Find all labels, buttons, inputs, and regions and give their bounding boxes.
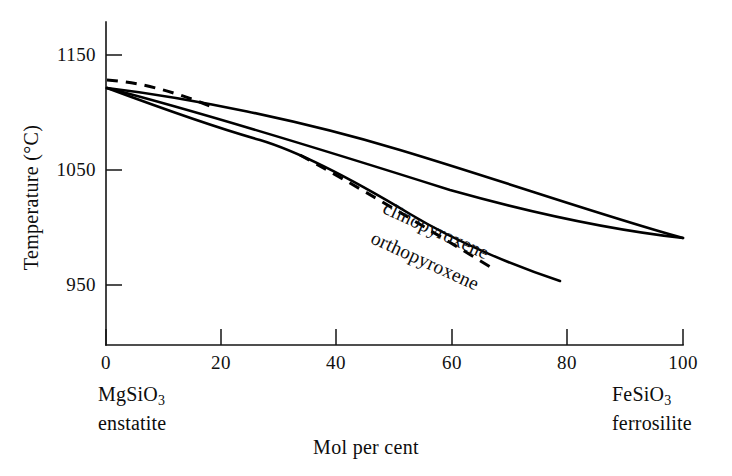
y-tick-label-950: 950: [38, 274, 96, 296]
curve-pyroxene-boundary-solid: [107, 88, 560, 281]
x-axis-title: Mol per cent: [0, 436, 732, 459]
x-tick-label-60: 60: [442, 352, 462, 374]
endmember-label-left: MgSiO3 enstatite: [98, 381, 166, 437]
x-tick-label-80: 80: [557, 352, 577, 374]
y-tick-label-1050: 1050: [38, 159, 96, 181]
x-tick-label-100: 100: [668, 352, 698, 374]
endmember-left-formula: MgSiO3: [98, 381, 166, 410]
endmember-left-subscript: 3: [158, 393, 165, 408]
x-tick-label-20: 20: [211, 352, 231, 374]
phase-diagram-figure: 1150 1050 950 0 20 40 60 80 100 Temperat…: [0, 0, 732, 476]
x-tick-label-40: 40: [326, 352, 346, 374]
endmember-label-right: FeSiO3 ferrosilite: [612, 381, 692, 437]
x-tick-label-0: 0: [101, 352, 111, 374]
endmember-right-formula: FeSiO3: [612, 381, 692, 410]
endmember-left-name: enstatite: [98, 410, 166, 436]
endmember-right-subscript: 3: [664, 393, 671, 408]
y-axis-title: Temperature (°C): [20, 93, 43, 303]
y-tick-label-1150: 1150: [38, 44, 96, 66]
endmember-right-name: ferrosilite: [612, 410, 692, 436]
